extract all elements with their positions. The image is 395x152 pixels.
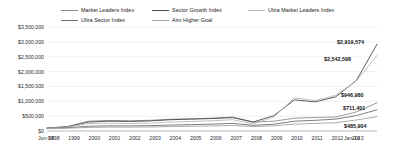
y-axis-tick-label: $3,000,000 — [18, 39, 44, 45]
legend-swatch-line-icon — [61, 20, 78, 21]
legend-item-sector-growth-index: Sector Growth Index — [152, 7, 222, 13]
legend-item-market-leaders-index: Market Leaders Index — [61, 7, 134, 13]
value-label-sector-growth-index: $2,919,574 — [337, 39, 364, 45]
x-axis-tick-label: 2011 — [312, 135, 323, 141]
x-axis-tick-label: 1998 — [48, 135, 60, 141]
legend-item-ultra-sector-index: Ultra Sector Index — [61, 17, 125, 23]
x-axis-tick-label: 2001 — [109, 135, 121, 141]
y-axis-tick-label: $2,500,000 — [18, 54, 44, 60]
gridlines — [47, 27, 377, 131]
legend-label: Sector Growth Index — [172, 7, 222, 13]
x-axis-tick-label: 2007 — [230, 135, 242, 141]
value-label-ultra-market-leaders-index: $2,542,598 — [324, 56, 351, 62]
legend-swatch-line-icon — [248, 10, 265, 11]
x-axis-tick-label: 2010 — [291, 135, 303, 141]
x-axis-tick-label: 2006 — [210, 135, 222, 141]
y-axis-tick-label: $1,000,000 — [18, 98, 44, 104]
value-label-ultra-sector-index: $711,401 — [343, 105, 365, 111]
legend-label: Ultra Market Leaders Index — [268, 7, 334, 13]
x-axis-tick-label: 2012 — [332, 135, 344, 141]
x-axis-tick-label: Jan-14 — [344, 135, 360, 141]
y-axis-tick-label: $500,000 — [22, 113, 44, 119]
y-axis-tick-label: $2,000,000 — [18, 69, 44, 75]
legend-swatch-line-icon — [152, 10, 169, 11]
x-axis-tick-label: 2003 — [149, 135, 161, 141]
y-axis-tick-label: $1,500,000 — [18, 83, 44, 89]
plot-svg — [47, 27, 377, 131]
value-label-aim-higher-goal: $485,904 — [344, 123, 366, 129]
x-axis-tick-label: 2008 — [251, 135, 263, 141]
plot-area — [47, 27, 377, 131]
legend-swatch-line-icon — [152, 20, 169, 21]
x-axis-tick-label: 2009 — [271, 135, 283, 141]
y-axis-tick-label: $3,500,000 — [18, 24, 44, 30]
x-axis-labels: Jun-981998199920002001200220032004200520… — [0, 133, 395, 145]
legend-label: Market Leaders Index — [81, 7, 134, 13]
x-axis-tick-label: 2004 — [170, 135, 182, 141]
x-axis-tick-label: 1999 — [68, 135, 80, 141]
legend-item-ultra-market-leaders-index: Ultra Market Leaders Index — [248, 7, 334, 13]
x-axis-tick-label: 2005 — [190, 135, 202, 141]
legend-swatch-line-icon — [61, 10, 78, 11]
legend-label: Ultra Sector Index — [81, 17, 125, 23]
x-axis-tick-label: 2000 — [89, 135, 101, 141]
legend-label: Aim Higher Goal — [172, 17, 212, 23]
x-axis-tick-label: 2002 — [129, 135, 141, 141]
chart-legend: Market Leaders Index Ultra Sector Index … — [0, 4, 395, 26]
legend-item-aim-higher-goal: Aim Higher Goal — [152, 17, 212, 23]
line-chart: Market Leaders Index Ultra Sector Index … — [0, 0, 395, 152]
y-axis-labels: $3,500,000$3,000,000$2,500,000$2,000,000… — [0, 0, 46, 152]
value-label-market-leaders-index: $946,980 — [341, 92, 363, 98]
